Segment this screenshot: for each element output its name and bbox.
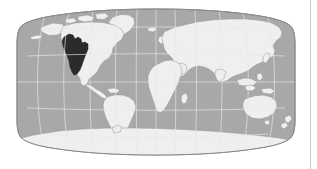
world-map-figure: [0, 0, 317, 169]
figure-right-border: [310, 0, 311, 169]
world-map-svg: [14, 6, 298, 158]
map-canvas: [14, 6, 298, 158]
